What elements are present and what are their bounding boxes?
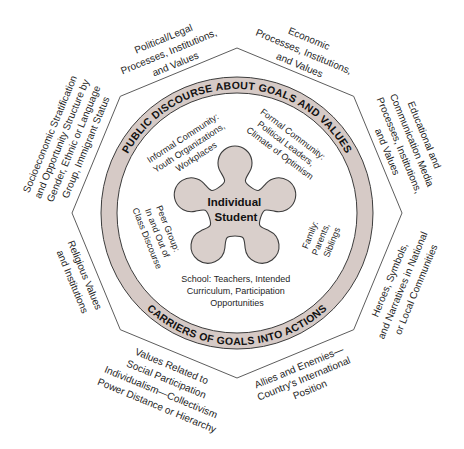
- label-line: Curriculum, Participation: [187, 286, 285, 296]
- label-educational-media: Educational and Communication Media Proc…: [362, 85, 450, 202]
- label-line: School: Teachers, Intended: [181, 274, 290, 284]
- label-economic: Economic Processes, Institutions, and Va…: [249, 14, 361, 90]
- label-religious: Religious Values and Institutions: [53, 239, 105, 319]
- label-line: Opportunities: [210, 298, 264, 308]
- goals-values-diagram: PUBLIC DISCOURSE ABOUT GOALS AND VALUES …: [0, 0, 464, 449]
- center-label-line: Student: [215, 211, 258, 223]
- label-heroes-symbols: Heroes, Symbols, and Narratives in Natio…: [362, 222, 443, 346]
- center-label-line: Individual: [208, 196, 262, 208]
- label-socioeconomic: Socioeconomic Stratification and Opportu…: [20, 70, 115, 209]
- label-allies-enemies: Allies and Enemies— Country's Internatio…: [251, 342, 360, 414]
- label-political-legal: Political/Legal Processes, Institutions,…: [114, 13, 226, 89]
- label-social-participation: Values Related to Social Participation I…: [96, 337, 234, 435]
